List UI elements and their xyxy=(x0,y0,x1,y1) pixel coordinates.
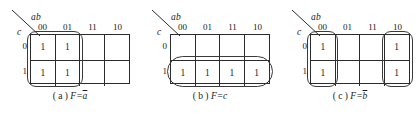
caption-a-tag: ( a ) xyxy=(53,91,68,101)
cell-value xyxy=(336,35,360,60)
kmap-a: ab c 00 01 11 10 0 1 1 1 1 1 xyxy=(0,0,140,114)
kmap-row-1: 1 1 xyxy=(311,61,409,86)
caption-c: ( c ) F=b xyxy=(280,90,420,103)
row-header-0: 0 xyxy=(294,34,307,59)
column-header-10: 10 xyxy=(245,21,270,33)
column-header-11: 11 xyxy=(360,21,385,33)
cell-value xyxy=(360,35,384,60)
cell-c-r1-c01 xyxy=(336,61,361,86)
kmap-grid-a: 1 1 1 1 xyxy=(30,34,130,84)
cell-value: 1 xyxy=(220,61,244,86)
row-header-1: 1 xyxy=(14,59,27,84)
caption-a-lhs: F= xyxy=(70,91,82,101)
row-header-1: 1 xyxy=(154,59,167,84)
cell-c-r1-c11 xyxy=(360,61,385,86)
column-header-01: 01 xyxy=(335,21,360,33)
column-header-11: 11 xyxy=(80,21,105,33)
caption-b-tag: ( b ) xyxy=(193,91,209,101)
cell-value: 1 xyxy=(385,61,409,86)
cell-value xyxy=(360,61,384,86)
cell-b-r0-c11 xyxy=(220,35,245,60)
cell-c-r0-c11 xyxy=(360,35,385,60)
cell-value xyxy=(105,61,129,86)
cell-a-r0-c10 xyxy=(105,35,129,60)
cell-c-r0-c10: 1 xyxy=(385,35,409,60)
cell-value xyxy=(245,35,269,60)
cell-value: 1 xyxy=(56,61,80,86)
cell-value xyxy=(196,35,220,60)
cell-value xyxy=(105,35,129,60)
cell-value xyxy=(171,35,195,60)
cell-a-r0-c11 xyxy=(80,35,105,60)
cell-b-r1-c00: 1 xyxy=(171,61,196,86)
caption-c-tag: ( c ) xyxy=(333,91,348,101)
cell-c-r0-c00: 1 xyxy=(311,35,336,60)
cell-value: 1 xyxy=(196,61,220,86)
row-header-0: 0 xyxy=(154,34,167,59)
cell-c-r0-c01 xyxy=(336,35,361,60)
row-headers: 0 1 xyxy=(154,34,167,84)
cell-a-r1-c00: 1 xyxy=(31,61,56,86)
caption-a-var: a xyxy=(83,91,88,101)
cell-a-r1-c11 xyxy=(80,61,105,86)
karnaugh-map-figure: ab c 00 01 11 10 0 1 1 1 1 1 xyxy=(0,0,420,114)
cell-b-r0-c01 xyxy=(196,35,221,60)
caption-b-var: c xyxy=(223,91,227,101)
row-header-1: 1 xyxy=(294,59,307,84)
cell-b-r0-c10 xyxy=(245,35,269,60)
kmap-b: ab c 00 01 11 10 0 1 1 1 1 1 xyxy=(140,0,280,114)
cell-b-r1-c10: 1 xyxy=(245,61,269,86)
cell-value: 1 xyxy=(171,61,195,86)
column-header-11: 11 xyxy=(220,21,245,33)
kmap-grid-c: 1 1 1 1 xyxy=(310,34,410,84)
column-header-01: 01 xyxy=(195,21,220,33)
cell-value xyxy=(220,35,244,60)
cell-b-r1-c11: 1 xyxy=(220,61,245,86)
cell-value xyxy=(80,61,104,86)
cell-value: 1 xyxy=(311,35,335,60)
column-header-00: 00 xyxy=(170,21,195,33)
caption-c-lhs: F= xyxy=(350,91,362,101)
column-header-00: 00 xyxy=(30,21,55,33)
column-header-10: 10 xyxy=(385,21,410,33)
cell-b-r0-c00 xyxy=(171,35,196,60)
kmap-row-1: 1 1 xyxy=(31,61,129,86)
cell-value: 1 xyxy=(56,35,80,60)
cell-value: 1 xyxy=(311,61,335,86)
caption-b: ( b ) F=c xyxy=(140,90,280,103)
cell-b-r1-c01: 1 xyxy=(196,61,221,86)
column-headers: 00 01 11 10 xyxy=(30,21,130,33)
cell-value: 1 xyxy=(245,61,269,86)
column-header-10: 10 xyxy=(105,21,130,33)
cell-value: 1 xyxy=(31,61,55,86)
column-header-00: 00 xyxy=(310,21,335,33)
kmap-row-0: 1 1 xyxy=(31,35,129,61)
column-header-01: 01 xyxy=(55,21,80,33)
column-headers: 00 01 11 10 xyxy=(310,21,410,33)
cell-value xyxy=(336,61,360,86)
cell-c-r1-c10: 1 xyxy=(385,61,409,86)
kmap-c: ab c 00 01 11 10 0 1 1 1 1 1 xyxy=(280,0,420,114)
kmap-row-0: 1 1 xyxy=(311,35,409,61)
caption-b-lhs: F= xyxy=(211,91,223,101)
kmap-row-1: 1 1 1 1 xyxy=(171,61,269,86)
column-headers: 00 01 11 10 xyxy=(170,21,270,33)
kmap-grid-b: 1 1 1 1 xyxy=(170,34,270,84)
cell-value xyxy=(80,35,104,60)
kmap-row-0 xyxy=(171,35,269,61)
cell-a-r0-c01: 1 xyxy=(56,35,81,60)
caption-c-var: b xyxy=(363,91,368,101)
row-header-0: 0 xyxy=(14,34,27,59)
cell-c-r1-c00: 1 xyxy=(311,61,336,86)
cell-value: 1 xyxy=(31,35,55,60)
cell-value: 1 xyxy=(385,35,409,60)
cell-a-r1-c10 xyxy=(105,61,129,86)
row-headers: 0 1 xyxy=(14,34,27,84)
row-headers: 0 1 xyxy=(294,34,307,84)
cell-a-r0-c00: 1 xyxy=(31,35,56,60)
cell-a-r1-c01: 1 xyxy=(56,61,81,86)
caption-a: ( a ) F=a xyxy=(0,90,140,103)
